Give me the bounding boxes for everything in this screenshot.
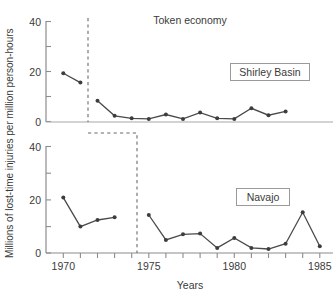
data-point: [147, 117, 151, 121]
data-point: [164, 238, 168, 242]
bottom-ytick-label-40: 40: [29, 141, 41, 153]
data-point: [181, 232, 185, 236]
data-point: [232, 236, 236, 240]
data-point: [113, 114, 117, 118]
bottom-intervention-dashed-bracket: [88, 133, 137, 253]
data-point: [249, 246, 253, 250]
top-baseline-series-line: [63, 73, 80, 82]
data-point: [215, 116, 219, 120]
data-point: [96, 218, 100, 222]
top-ytick-label-40: 40: [29, 16, 41, 28]
bottom-treatment-series-line: [149, 212, 320, 249]
navajo-label: Navajo: [247, 191, 280, 203]
data-point: [61, 196, 65, 200]
panel-navajo: 40 20 0 1970 1975 1980: [29, 133, 333, 291]
y-axis-title: Millions of lost-time injuries per milli…: [4, 28, 15, 258]
data-point: [164, 113, 168, 117]
data-point: [181, 117, 185, 121]
chart-title: Token economy: [153, 14, 227, 26]
data-point: [232, 117, 236, 121]
bottom-baseline-series-line: [63, 198, 114, 227]
bottom-ytick-label-20: 20: [29, 194, 41, 206]
xtick-label-1975: 1975: [137, 260, 161, 272]
bottom-ytick-label-0: 0: [35, 247, 41, 259]
data-point: [284, 242, 288, 246]
xtick-label-1980: 1980: [223, 260, 247, 272]
xtick-label-1985: 1985: [308, 260, 332, 272]
data-point: [318, 244, 322, 248]
data-point: [130, 116, 134, 120]
data-point: [113, 215, 117, 219]
data-point: [147, 213, 151, 217]
panel-shirley-basin: 40 20 0 Token economy: [29, 14, 333, 128]
data-point: [267, 113, 271, 117]
data-point: [301, 210, 305, 214]
data-point: [78, 81, 82, 85]
x-axis-title: Years: [177, 279, 203, 291]
top-treatment-series-line: [98, 101, 286, 119]
data-point: [215, 246, 219, 250]
data-point: [284, 109, 288, 113]
data-point: [96, 99, 100, 103]
top-ytick-label-0: 0: [35, 116, 41, 128]
xtick-label-1970: 1970: [52, 260, 76, 272]
data-point: [249, 106, 253, 110]
data-point: [198, 111, 202, 115]
data-point: [198, 232, 202, 236]
top-ytick-label-20: 20: [29, 66, 41, 78]
shirley-basin-label: Shirley Basin: [239, 66, 300, 78]
data-point: [267, 247, 271, 251]
data-point: [61, 71, 65, 75]
chart-figure: Millions of lost-time injuries per milli…: [0, 0, 335, 295]
data-point: [78, 225, 82, 229]
token-economy-multipanel-chart: Millions of lost-time injuries per milli…: [0, 0, 335, 295]
